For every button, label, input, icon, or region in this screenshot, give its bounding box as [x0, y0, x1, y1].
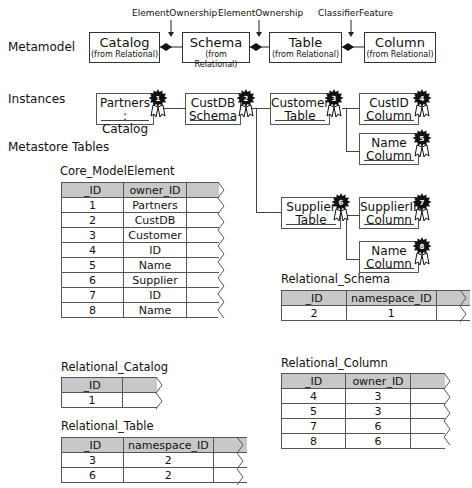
- table-torn-edges: [0, 0, 472, 488]
